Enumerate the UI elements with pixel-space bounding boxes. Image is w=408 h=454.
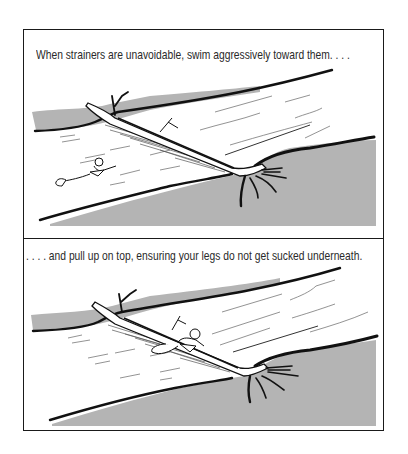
- near-bank: [52, 340, 376, 426]
- near-bank: [50, 140, 376, 226]
- illustration-layer: [0, 0, 408, 454]
- strainer-debris: [105, 125, 225, 172]
- panel-2-illustration: [31, 268, 377, 426]
- panel-1-illustration: [32, 70, 376, 226]
- far-bank: [31, 278, 280, 330]
